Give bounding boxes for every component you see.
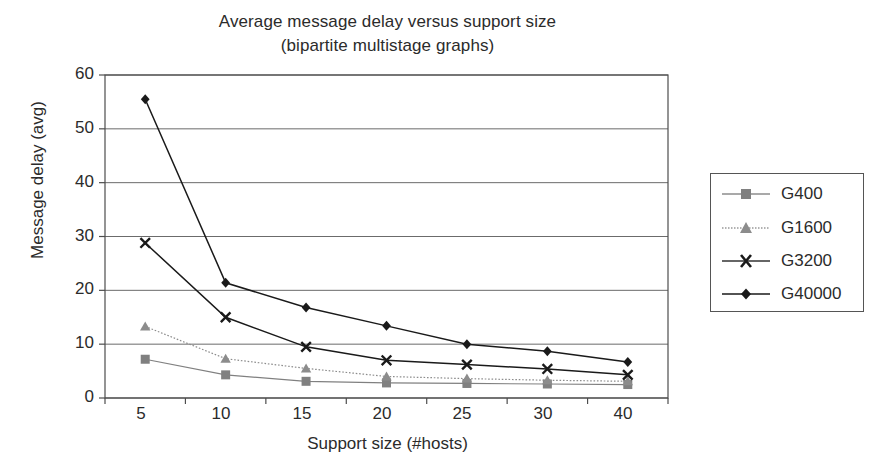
legend-marker-diamond-icon bbox=[720, 285, 772, 303]
data-point-square bbox=[141, 355, 150, 364]
data-point-triangle bbox=[462, 374, 472, 383]
chart-legend: G400 G1600 G3200 G40000 bbox=[710, 173, 864, 312]
data-point-triangle bbox=[140, 321, 150, 330]
data-point-triangle bbox=[220, 354, 230, 363]
data-point-diamond bbox=[543, 346, 552, 356]
chart-figure: Average message delay versus support siz… bbox=[0, 0, 886, 472]
legend-label: G3200 bbox=[781, 251, 832, 271]
series-g3200 bbox=[140, 238, 632, 379]
series-g40000 bbox=[141, 94, 632, 367]
legend-item-g400[interactable]: G400 bbox=[711, 178, 863, 210]
grid-lines bbox=[105, 75, 668, 398]
data-point-cross bbox=[140, 238, 150, 248]
data-point-diamond bbox=[463, 339, 472, 349]
legend-item-g1600[interactable]: G1600 bbox=[711, 212, 863, 244]
data-point-diamond bbox=[382, 321, 391, 331]
series-lines bbox=[140, 94, 633, 389]
legend-item-g3200[interactable]: G3200 bbox=[711, 245, 863, 277]
legend-marker-square-icon bbox=[720, 185, 772, 203]
axis-ticks bbox=[99, 75, 668, 404]
data-point-diamond bbox=[221, 278, 230, 288]
data-point-diamond bbox=[141, 94, 150, 104]
legend-label: G40000 bbox=[781, 284, 842, 304]
data-point-diamond bbox=[623, 357, 632, 367]
legend-marker-triangle-icon bbox=[720, 219, 772, 237]
legend-label: G1600 bbox=[781, 218, 832, 238]
data-point-square bbox=[302, 377, 311, 386]
legend-label: G400 bbox=[781, 184, 823, 204]
data-point-diamond bbox=[302, 303, 311, 313]
data-point-cross bbox=[221, 312, 231, 322]
data-point-square bbox=[221, 370, 230, 379]
legend-marker-cross-icon bbox=[720, 252, 772, 270]
legend-item-g40000[interactable]: G40000 bbox=[711, 278, 863, 310]
